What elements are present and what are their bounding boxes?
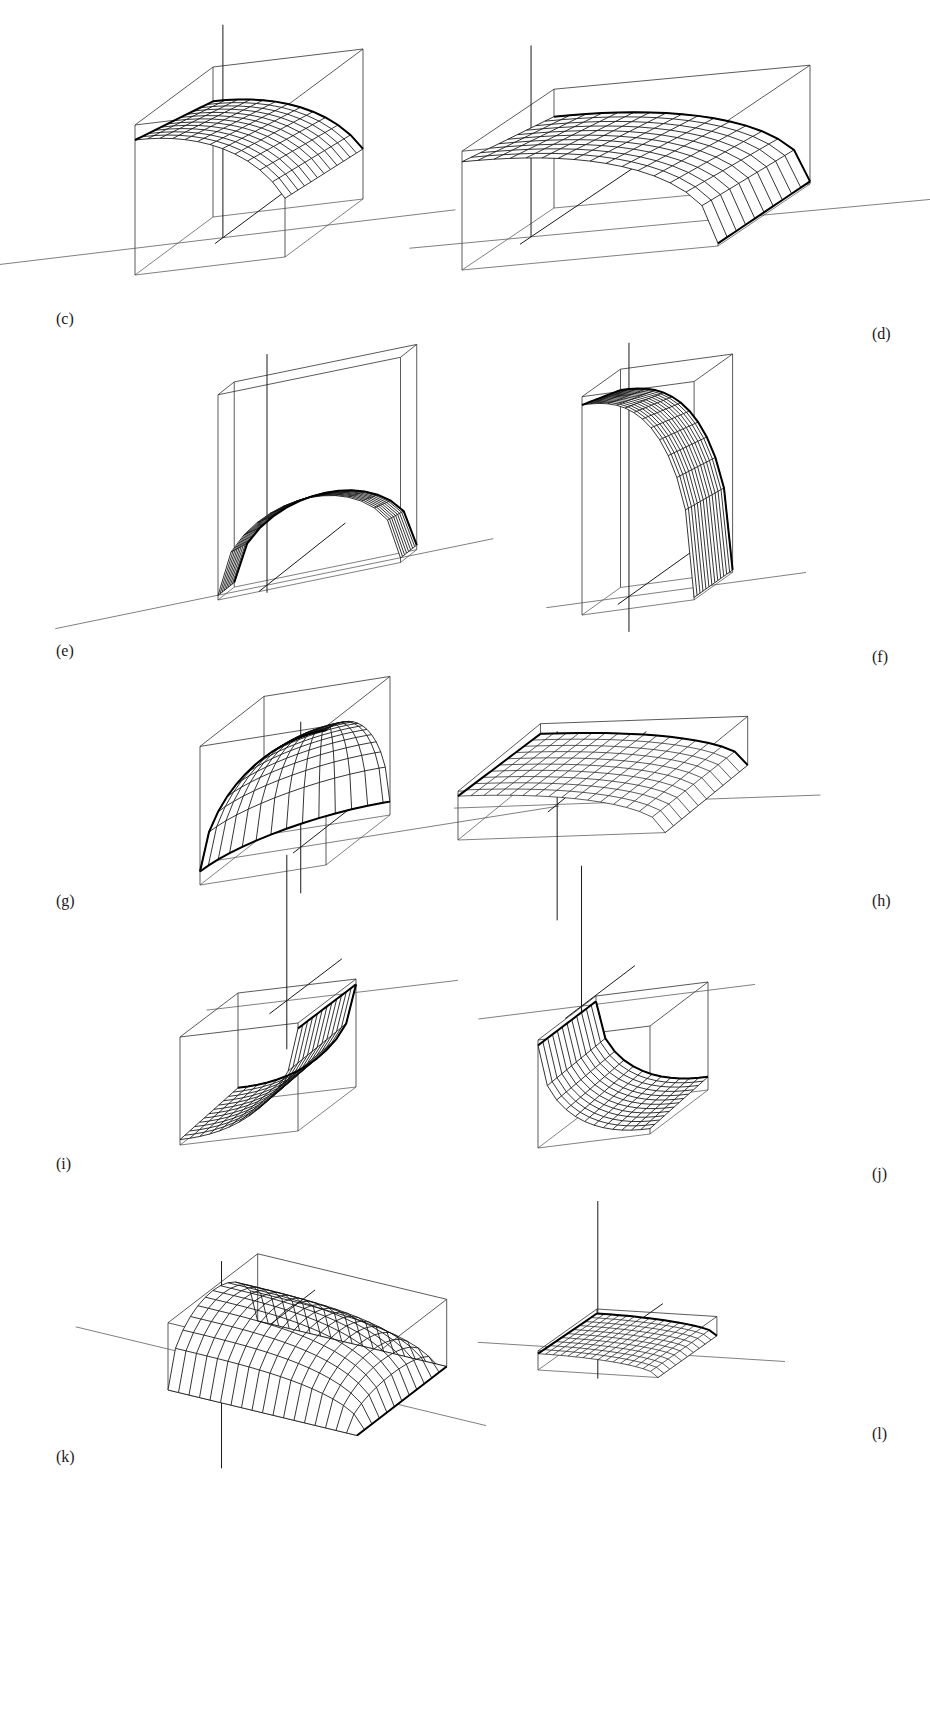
panel-label-h: (h)	[872, 892, 891, 910]
plot-panel-c	[95, 55, 395, 355]
plot-panel-g	[160, 675, 450, 925]
plot-panel-h	[440, 670, 750, 920]
figure-root: (c) (d) (e) (f) (g) (h) (i) (j) (k) (l)	[0, 0, 930, 1718]
panel-label-g: (g)	[56, 892, 75, 910]
panel-row-3: (g) (h)	[0, 670, 930, 940]
panel-label-l: (l)	[872, 1425, 887, 1443]
panel-label-c: (c)	[56, 310, 74, 328]
panel-label-k: (k)	[56, 1448, 75, 1466]
panel-label-f: (f)	[872, 648, 888, 666]
plot-panel-e	[190, 370, 470, 650]
plot-panel-j	[500, 940, 760, 1190]
panel-label-i: (i)	[56, 1155, 71, 1173]
plot-panel-k	[150, 1200, 480, 1480]
plot-panel-f	[530, 370, 810, 660]
plot-panel-l	[510, 1250, 810, 1480]
panel-row-2: (e) (f)	[0, 360, 930, 670]
panel-row-5: (k) (l)	[0, 1190, 930, 1490]
panel-label-j: (j)	[872, 1165, 887, 1183]
plot-panel-i	[150, 940, 410, 1190]
panel-row-1: (c) (d)	[0, 0, 930, 360]
plot-panel-d	[440, 55, 820, 355]
panel-label-d: (d)	[872, 325, 891, 343]
panel-row-4: (i) (j)	[0, 940, 930, 1190]
panel-label-e: (e)	[56, 642, 74, 660]
